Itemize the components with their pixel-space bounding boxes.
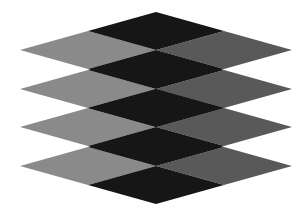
- stacked-rhombi-diagram: [0, 0, 306, 218]
- rhombi-canvas: [0, 0, 306, 218]
- rhombus-layer-4: [20, 128, 292, 204]
